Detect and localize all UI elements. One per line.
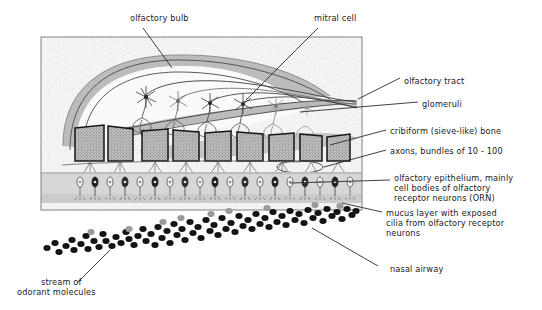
bone-block — [75, 125, 104, 161]
bone-block — [205, 131, 231, 161]
label-olfactory-epithelium-line1: olfactory epithelium, mainly — [394, 173, 513, 183]
label-odorant-stream: stream of odorant molecules — [17, 277, 96, 297]
leader-olfactory-tract — [358, 78, 400, 99]
label-cribiform-bone: cribiform (sieve-like) bone — [390, 126, 501, 136]
leader-nasal-airway — [312, 228, 378, 266]
label-olfactory-tract: olfactory tract — [404, 76, 464, 86]
bone-block — [269, 133, 294, 161]
label-mucus-layer-line1: mucus layer with exposed — [386, 208, 504, 218]
label-olfactory-bulb: olfactory bulb — [130, 13, 189, 23]
label-mucus-layer-line2: cilia from olfactory receptor — [386, 218, 504, 228]
bone-block — [327, 134, 350, 161]
label-odorant-stream-line1: stream of — [17, 277, 96, 287]
label-olfactory-epithelium: olfactory epithelium, mainly cell bodies… — [394, 173, 513, 204]
mucus-layer-band — [41, 194, 362, 203]
label-axons: axons, bundles of 10 - 100 — [390, 146, 503, 156]
bone-block — [108, 126, 133, 161]
bone-block — [173, 130, 199, 161]
label-odorant-stream-line2: odorant molecules — [17, 287, 96, 297]
label-glomeruli: glomeruli — [422, 99, 462, 109]
figure-canvas: olfactory bulb mitral cell olfactory tra… — [0, 0, 542, 310]
label-mucus-layer: mucus layer with exposed cilia from olfa… — [386, 208, 504, 239]
bone-block — [300, 134, 322, 161]
label-olfactory-epithelium-line3: receptor neurons (ORN) — [394, 193, 513, 203]
label-nasal-airway: nasal airway — [390, 264, 443, 274]
label-olfactory-epithelium-line2: cell bodies of olfactory — [394, 183, 513, 193]
bone-block — [237, 132, 263, 161]
bone-block — [142, 129, 168, 161]
label-mucus-layer-line3: neurons — [386, 228, 504, 238]
label-mitral-cell: mitral cell — [314, 13, 356, 23]
